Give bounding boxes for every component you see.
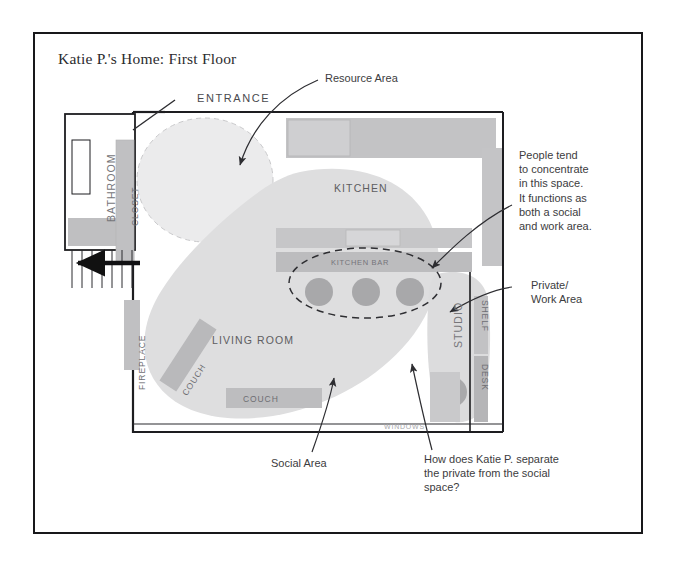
room-label-closet: CLOSET <box>130 187 140 226</box>
furniture-label-kitchen-bar: KITCHEN BAR <box>331 258 389 267</box>
annotation-private-work-area: Private/ Work Area <box>531 278 582 306</box>
annotation-social-area: Social Area <box>271 456 327 470</box>
bar-stools <box>305 278 424 306</box>
room-label-studio: STUDIO <box>452 302 464 348</box>
furniture-label-desk: DESK <box>480 364 490 391</box>
room-label-bathroom: BATHROOM <box>105 153 117 222</box>
windows-label: WINDOWS <box>384 423 425 430</box>
annotation-resource-area: Resource Area <box>325 71 398 85</box>
entrance-label: ENTRANCE <box>197 92 270 104</box>
diagram-canvas: Katie P.'s Home: First Floor <box>0 0 675 568</box>
furniture-label-couch-lower: COUCH <box>243 394 279 404</box>
annotation-people-concentrate: People tend to concentrate in this space… <box>519 148 592 233</box>
furniture-label-fireplace: FIREPLACE <box>137 335 147 390</box>
room-label-living-room: LIVING ROOM <box>212 334 294 346</box>
furniture-label-shelf: SHELF <box>480 300 490 332</box>
room-label-kitchen: KITCHEN <box>334 182 388 194</box>
annotation-separation-question: How does Katie P. separate the private f… <box>424 452 559 495</box>
